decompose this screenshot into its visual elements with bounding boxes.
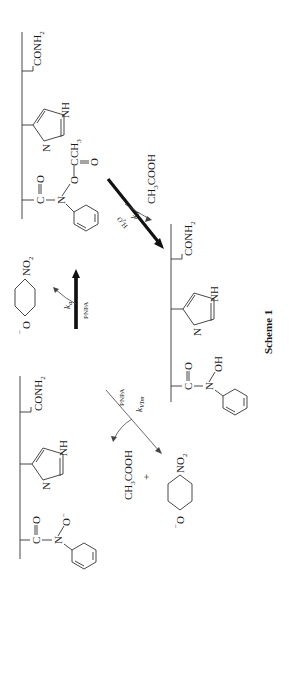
top-acyl-c: C (68, 159, 80, 166)
kvim-plus: + (140, 474, 152, 480)
left-o-minus: O (60, 518, 72, 526)
left-imidazole-nh: NH (57, 440, 69, 456)
right-carbonyl-o: O (182, 362, 194, 370)
svg-text:−: − (16, 330, 24, 334)
top-polymer-structure: CONH2 NH N C O N O C O CH3 (22, 31, 100, 231)
kvim-product-acetic-acid: CH3COOH (122, 450, 137, 500)
ka-reagent-pnpa: PNPA (82, 302, 90, 319)
left-n: N (52, 536, 64, 544)
top-ch3: CH3 (68, 139, 83, 158)
right-imidazole-nh: NH (208, 286, 220, 302)
kvim-reagent-pnpa: PNPA (118, 389, 126, 406)
right-conh2: CONH2 (182, 221, 197, 256)
arrow-kd: kd H2O CH3COOH (108, 154, 164, 249)
right-n: N (203, 382, 215, 390)
ka-nitrophenyl-ring (15, 279, 35, 316)
top-n: N (55, 196, 67, 204)
right-phenyl-ring (223, 389, 247, 415)
svg-text:−: − (60, 513, 68, 517)
arrow-kvim: kVIm PNPA CH3COOH + − O NO2 (106, 389, 192, 528)
left-carbonyl-c: C (30, 537, 42, 544)
right-carbonyl-c: C (182, 383, 194, 390)
left-polymer-structure: CONH2 NH N C O N O − (20, 376, 96, 569)
ka-label: ka (62, 301, 74, 309)
left-imidazole-n: N (40, 482, 52, 490)
left-carbonyl-o: O (30, 516, 42, 524)
top-imidazole-n: N (40, 144, 52, 152)
kvim-label: kVIm (134, 396, 146, 412)
arrow-ka: ka PNPA − O NO2 (15, 256, 90, 334)
right-polymer-structure: CONH2 NH N C O N OH (171, 221, 247, 415)
top-conh2: CONH2 (31, 31, 46, 66)
ka-no2: NO2 (20, 256, 35, 276)
right-oh: OH (212, 356, 224, 372)
top-acyl-o: O (88, 158, 100, 166)
top-phenyl-ring (74, 205, 98, 231)
left-conh2: CONH2 (32, 376, 47, 411)
kvim-nitrophenyl-ring (168, 475, 192, 510)
kd-product-acetic-acid: CH3COOH (145, 154, 160, 204)
right-imidazole-n: N (191, 328, 203, 336)
top-carbonyl-o: O (34, 175, 46, 183)
kvim-no2: NO2 (174, 453, 189, 473)
reaction-scheme: CONH2 NH N C O N O C O CH3 (0, 0, 290, 674)
top-imidazole-nh: NH (59, 102, 71, 118)
kvim-phenolate-o: O (174, 516, 186, 524)
top-ester-o: O (68, 176, 80, 184)
ka-phenolate-o: O (20, 321, 32, 329)
top-carbonyl-c: C (34, 197, 46, 204)
left-phenyl-ring (72, 543, 96, 569)
scheme-caption: Scheme 1 (262, 310, 274, 354)
